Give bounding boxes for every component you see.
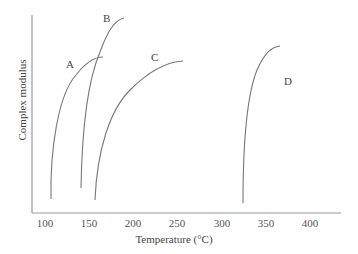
x-tick-300: 300 [214, 217, 231, 229]
curve-label-a: A [66, 58, 74, 70]
curve-label-b: B [103, 12, 110, 24]
curve-label-c: C [151, 51, 158, 63]
x-axis-title: Temperature (°C) [135, 233, 213, 246]
curve-c [95, 61, 183, 200]
curve-a [51, 57, 103, 199]
x-tick-250: 250 [169, 217, 186, 229]
curve-d [243, 46, 280, 203]
y-axis-title: Complex modulus [16, 60, 28, 141]
x-tick-100: 100 [37, 217, 54, 229]
x-tick-350: 350 [258, 217, 275, 229]
x-tick-400: 400 [302, 217, 319, 229]
curve-label-d: D [284, 75, 292, 87]
modulus-temperature-chart: A B C D 100 150 200 250 300 350 400 Temp… [0, 0, 358, 254]
x-tick-150: 150 [81, 217, 98, 229]
curve-b [81, 18, 124, 188]
x-tick-200: 200 [125, 217, 142, 229]
